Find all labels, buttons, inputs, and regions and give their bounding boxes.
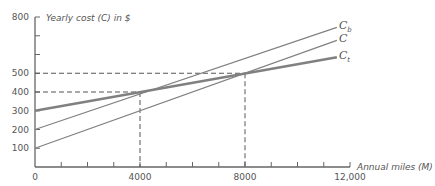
series-line-c-b — [35, 27, 337, 129]
y-tick-label: 500 — [12, 68, 29, 78]
x-tick-label: 0 — [32, 172, 38, 182]
axes: 10020030040050080004000800012,000Yearly … — [12, 12, 433, 182]
x-axis-title: Annual miles (M) — [356, 162, 433, 172]
cost-vs-miles-chart: 10020030040050080004000800012,000Yearly … — [0, 0, 435, 186]
x-tick-label: 8000 — [234, 172, 257, 182]
series-label-c-t: Ct — [339, 49, 350, 64]
y-tick-label: 300 — [12, 106, 29, 116]
reference-lines — [35, 73, 245, 167]
y-axis-title: Yearly cost (C) in $ — [46, 13, 131, 23]
y-tick-label: 100 — [12, 143, 29, 153]
series-line-c — [35, 40, 337, 148]
y-tick-label: 200 — [12, 125, 29, 135]
y-tick-label: 800 — [12, 12, 29, 22]
x-tick-label: 12,000 — [334, 172, 366, 182]
labels: CbCCt — [339, 19, 352, 64]
series-line-c-t — [35, 57, 337, 110]
series-lines — [35, 27, 337, 148]
y-tick-label: 400 — [12, 87, 29, 97]
series-label-c: C — [339, 32, 348, 45]
x-tick-label: 4000 — [129, 172, 152, 182]
